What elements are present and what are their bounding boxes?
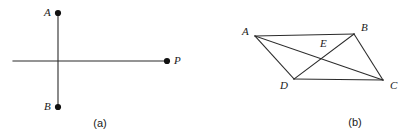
point-label-b-A: A <box>242 26 249 37</box>
point-dot-B <box>55 104 61 110</box>
panel-b-drawing <box>208 0 416 136</box>
figure-panel-a: A B P (a) <box>0 0 208 136</box>
side-AB <box>255 34 354 36</box>
point-label-a-B: B <box>44 101 51 112</box>
point-label-a-P: P <box>174 55 181 66</box>
caption-panel-a: (a) <box>80 118 120 129</box>
point-label-b-C: C <box>390 80 397 91</box>
point-label-b-D: D <box>280 80 288 91</box>
diagonal-AC <box>255 36 383 80</box>
point-label-a-A: A <box>44 7 51 18</box>
caption-panel-b: (b) <box>335 117 375 128</box>
point-label-b-E: E <box>320 38 327 49</box>
geometry-figure: A B P (a) A B C D E (b) <box>0 0 416 136</box>
point-dot-P <box>164 58 170 64</box>
side-CD <box>294 79 383 80</box>
panel-a-drawing <box>0 0 208 136</box>
figure-panel-b: A B C D E (b) <box>208 0 416 136</box>
point-label-b-B: B <box>361 22 368 33</box>
side-BC <box>354 34 383 80</box>
point-dot-A <box>55 10 61 16</box>
